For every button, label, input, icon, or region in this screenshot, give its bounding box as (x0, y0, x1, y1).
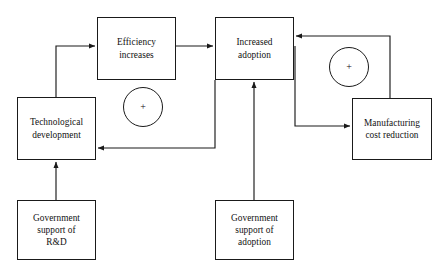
polarity-symbol: + (140, 102, 146, 112)
node-efficiency-label: Efficiency increases (115, 36, 158, 61)
node-government-support-rd[interactable]: Government support of R&D (17, 200, 96, 260)
diagram-canvas: Efficiency increases Increased adoption … (0, 0, 442, 277)
polarity-marker-right-loop-plus: + (329, 47, 369, 87)
node-technological-development[interactable]: Technological development (17, 97, 96, 160)
edge-technological-development-to-efficiency (56, 46, 95, 97)
node-efficiency[interactable]: Efficiency increases (97, 17, 176, 80)
node-manufacturing-cost-reduction-label: Manufacturing cost reduction (362, 117, 422, 142)
node-technological-development-label: Technological development (28, 116, 85, 141)
node-increased-adoption-label: Increased adoption (234, 36, 274, 61)
polarity-symbol: + (346, 62, 352, 72)
node-government-support-rd-label: Government support of R&D (31, 212, 82, 249)
polarity-marker-left-loop-plus: + (123, 87, 163, 127)
node-government-support-adoption-label: Government support of adoption (229, 212, 280, 249)
node-manufacturing-cost-reduction[interactable]: Manufacturing cost reduction (352, 98, 432, 160)
node-government-support-adoption[interactable]: Government support of adoption (215, 200, 294, 260)
node-increased-adoption[interactable]: Increased adoption (215, 17, 294, 80)
